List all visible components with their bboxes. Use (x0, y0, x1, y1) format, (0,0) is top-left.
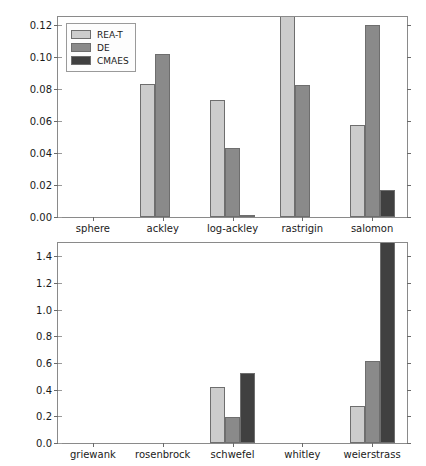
y-tick-mark-right (407, 121, 411, 122)
chart-panel-top: 0.000.020.040.060.080.100.12 sphereackle… (0, 0, 426, 232)
plot-axes-bottom: 0.00.20.40.60.81.01.21.4 griewankrosenbr… (57, 242, 408, 444)
bar-rastrigin-de (295, 85, 310, 217)
figure: 0.000.020.040.060.080.100.12 sphereackle… (0, 0, 426, 466)
y-tick-mark-right (407, 185, 411, 186)
x-tick-mark (233, 217, 234, 221)
y-axis-tick-label: 0.00 (30, 212, 52, 223)
x-tick-mark (372, 217, 373, 221)
chart-panel-bottom: 0.00.20.40.60.81.01.21.4 griewankrosenbr… (0, 232, 426, 466)
y-tick-mark-right (407, 363, 411, 364)
x-axis-tick-label: whitley (284, 449, 320, 460)
x-tick-mark (163, 443, 164, 447)
x-tick-mark (93, 217, 94, 221)
y-axis-tick-label: 0.4 (36, 384, 52, 395)
y-tick-mark-inner (58, 310, 62, 311)
legend-label-rea-t: REA-T (97, 30, 123, 40)
y-axis-tick-label: 0.6 (36, 358, 52, 369)
y-tick-mark-right (407, 390, 411, 391)
y-axis-tick-label: 0.08 (30, 84, 52, 95)
y-tick-mark-right (407, 153, 411, 154)
y-tick-mark-inner (58, 121, 62, 122)
y-tick-mark-right (407, 89, 411, 90)
legend-item-rea-t: REA-T (71, 28, 129, 41)
x-tick-mark (302, 217, 303, 221)
bar-schwefel-cmaes (240, 373, 255, 443)
y-tick-mark-inner (58, 336, 62, 337)
bar-schwefel-de (225, 417, 240, 443)
legend-label-cmaes: CMAES (97, 56, 129, 66)
y-axis-tick-label: 0.2 (36, 411, 52, 422)
legend-label-de: DE (97, 43, 110, 53)
bar-ackley-de (155, 54, 170, 217)
bar-salomon-de (365, 25, 380, 217)
y-axis-tick-label: 0.06 (30, 116, 52, 127)
y-tick-mark-right (407, 416, 411, 417)
bar-rastrigin-rea-t (280, 17, 295, 217)
y-tick-mark-right (407, 336, 411, 337)
y-axis-tick-label: 1.2 (36, 278, 52, 289)
bar-log-ackley-de (225, 148, 240, 217)
bar-weierstrass-cmaes (380, 243, 395, 443)
y-tick-mark-inner (58, 416, 62, 417)
y-tick-mark-inner (58, 443, 62, 444)
x-tick-mark (93, 443, 94, 447)
y-tick-mark-inner (58, 283, 62, 284)
y-tick-mark-inner (58, 217, 62, 218)
x-axis-tick-label: rosenbrock (135, 449, 190, 460)
legend-swatch-rea-t (71, 30, 91, 39)
plot-axes-top: 0.000.020.040.060.080.100.12 sphereackle… (57, 16, 408, 218)
x-tick-mark (233, 443, 234, 447)
y-axis-tick-label: 1.0 (36, 304, 52, 315)
x-tick-mark (163, 217, 164, 221)
legend-swatch-cmaes (71, 56, 91, 65)
bar-log-ackley-cmaes (240, 215, 255, 217)
y-tick-mark-right (407, 217, 411, 218)
bar-ackley-rea-t (140, 84, 155, 217)
y-axis-tick-label: 0.8 (36, 331, 52, 342)
legend: REA-T DE CMAES (66, 23, 136, 72)
y-tick-mark-inner (58, 363, 62, 364)
y-tick-mark-inner (58, 89, 62, 90)
x-axis-tick-label: weierstrass (344, 449, 401, 460)
y-axis-tick-label: 0.04 (30, 148, 52, 159)
y-axis-tick-label: 0.0 (36, 438, 52, 449)
y-tick-mark-right (407, 443, 411, 444)
y-tick-mark-inner (58, 57, 62, 58)
legend-item-cmaes: CMAES (71, 54, 129, 67)
y-tick-mark-right (407, 283, 411, 284)
y-tick-mark-inner (58, 185, 62, 186)
y-tick-mark-right (407, 310, 411, 311)
x-tick-mark (372, 443, 373, 447)
legend-item-de: DE (71, 41, 129, 54)
y-tick-mark-right (407, 256, 411, 257)
bar-log-ackley-rea-t (210, 100, 225, 217)
legend-swatch-de (71, 43, 91, 52)
bar-salomon-rea-t (350, 125, 365, 217)
y-axis-tick-label: 0.12 (30, 20, 52, 31)
x-axis-tick-label: schwefel (211, 449, 255, 460)
y-tick-mark-inner (58, 25, 62, 26)
bar-weierstrass-de (365, 361, 380, 443)
y-tick-mark-right (407, 57, 411, 58)
y-axis-tick-label: 0.02 (30, 180, 52, 191)
y-tick-mark-right (407, 25, 411, 26)
y-tick-mark-inner (58, 256, 62, 257)
y-axis-tick-label: 1.4 (36, 251, 52, 262)
y-tick-mark-inner (58, 390, 62, 391)
y-axis-tick-label: 0.10 (30, 52, 52, 63)
bar-salomon-cmaes (380, 190, 395, 217)
x-tick-mark (302, 443, 303, 447)
x-axis-tick-label: griewank (70, 449, 116, 460)
bar-weierstrass-rea-t (350, 406, 365, 443)
y-tick-mark-inner (58, 153, 62, 154)
bar-schwefel-rea-t (210, 387, 225, 443)
plot-area-bottom (58, 243, 407, 443)
